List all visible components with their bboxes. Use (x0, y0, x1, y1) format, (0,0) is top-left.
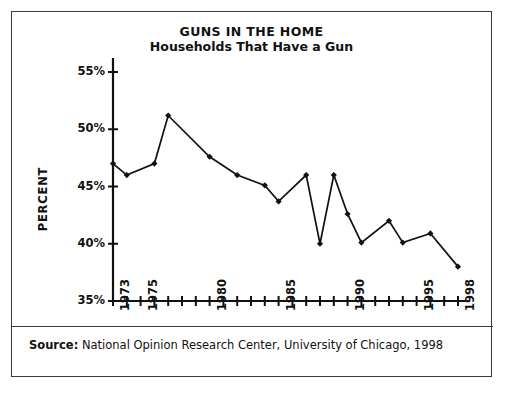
data-point-marker (317, 241, 323, 247)
data-series-line (113, 116, 458, 267)
chart-figure: GUNS IN THE HOME Households That Have a … (11, 11, 492, 377)
x-axis-tick-label: 1980 (215, 279, 229, 311)
series-polyline (113, 116, 458, 267)
y-axis-tick-label: 50% (51, 121, 105, 135)
plot-area: 35%40%45%50%55% 197319751980198519901995… (12, 12, 493, 378)
x-axis-tick-label: 1990 (353, 279, 367, 311)
footer-divider (12, 326, 493, 327)
axes-group (108, 58, 468, 306)
y-axis-tick-label: 45% (51, 179, 105, 193)
y-axis-tick-label: 40% (51, 236, 105, 250)
data-point-marker (151, 161, 157, 167)
x-axis-tick-label: 1975 (146, 279, 160, 311)
x-axis-tick-label: 1973 (118, 279, 132, 311)
x-axis-tick-label: 1995 (422, 279, 436, 311)
y-axis-tick-label: 55% (51, 64, 105, 78)
data-point-marker (331, 172, 337, 178)
source-text: National Opinion Research Center, Univer… (82, 338, 443, 352)
x-axis-tick-label: 1985 (284, 279, 298, 311)
source-note: Source: National Opinion Research Center… (29, 338, 443, 352)
y-axis-title: PERCENT (36, 154, 50, 244)
y-axis-tick-label: 35% (51, 293, 105, 307)
data-point-marker (345, 211, 351, 217)
x-axis-tick-label: 1998 (463, 279, 477, 311)
source-label: Source: (29, 338, 78, 352)
